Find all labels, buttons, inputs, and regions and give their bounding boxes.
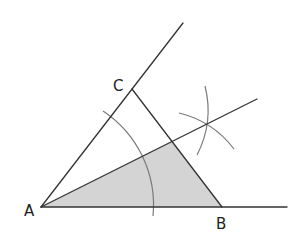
diagram-svg: A B C: [0, 0, 304, 245]
shaded-triangle: [41, 141, 222, 207]
label-b: B: [216, 215, 226, 233]
geometry-diagram: A B C: [0, 0, 304, 245]
label-a: A: [24, 202, 35, 220]
label-c: C: [113, 77, 123, 95]
construction-arc-from-ab: [179, 113, 234, 149]
